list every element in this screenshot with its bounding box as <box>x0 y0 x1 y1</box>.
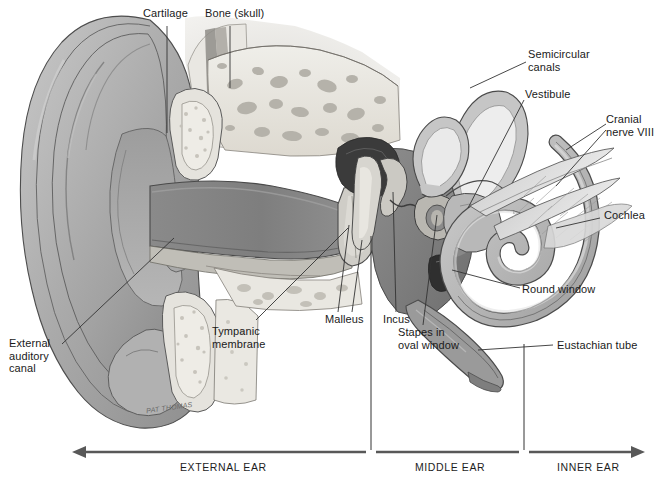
label-external-auditory-canal: External auditory canal <box>9 337 50 375</box>
section-label-external-ear: EXTERNAL EAR <box>180 461 267 473</box>
label-malleus: Malleus <box>325 313 364 326</box>
section-label-middle-ear: MIDDLE EAR <box>415 461 485 473</box>
label-tympanic-membrane: Tympanic membrane <box>212 325 265 350</box>
label-semicircular-canals: Semicircular canals <box>528 48 590 73</box>
label-cranial-nerve-viii: Cranial nerve VIII <box>606 113 654 138</box>
label-cochlea: Cochlea <box>604 209 645 222</box>
label-eustachian-tube: Eustachian tube <box>557 339 637 352</box>
label-cartilage: Cartilage <box>143 7 188 20</box>
label-bone-skull: Bone (skull) <box>205 7 264 20</box>
ear-region-scale-bar <box>72 446 645 458</box>
section-label-inner-ear: INNER EAR <box>557 461 620 473</box>
label-vestibule: Vestibule <box>525 88 571 101</box>
ear-anatomy-figure: Cartilage Bone (skull) Semicircular cana… <box>0 0 657 479</box>
label-incus: Incus <box>383 313 410 326</box>
label-round-window: Round window <box>522 283 595 296</box>
label-stapes-oval-window: Stapes in oval window <box>398 326 459 351</box>
